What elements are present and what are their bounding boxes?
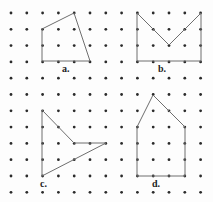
grid-dot	[10, 109, 13, 112]
grid-dot	[41, 93, 44, 96]
grid-dot	[89, 126, 92, 129]
shape-a	[42, 13, 90, 61]
grid-dot	[89, 109, 92, 112]
grid-dot	[120, 126, 123, 129]
grid-dot	[25, 158, 28, 161]
grid-dot	[199, 77, 202, 80]
grid-dot	[10, 158, 13, 161]
grid-dot	[57, 109, 60, 112]
grid-dot	[120, 12, 123, 15]
grid-dot	[25, 109, 28, 112]
grid-dot	[57, 12, 60, 15]
grid-dot	[10, 93, 13, 96]
grid-dot	[25, 126, 28, 129]
grid-dot	[199, 175, 202, 178]
grid-dot	[10, 12, 13, 15]
label-d: d.	[152, 179, 160, 189]
grid-dot	[104, 191, 107, 194]
grid-dot	[57, 44, 60, 47]
grid-dot	[152, 158, 155, 161]
grid-dot	[104, 109, 107, 112]
grid-dot	[89, 93, 92, 96]
grid-dot	[104, 44, 107, 47]
dot-grid-figure: a.b.c.d.	[0, 0, 213, 202]
grid-dot	[57, 175, 60, 178]
grid-dot	[104, 77, 107, 80]
grid-dot	[120, 109, 123, 112]
grid-dot	[199, 142, 202, 145]
grid-dot	[73, 44, 76, 47]
grid-dot	[120, 158, 123, 161]
grid-dot	[120, 61, 123, 64]
grid-dot	[183, 12, 186, 15]
grid-dot	[10, 28, 13, 31]
shape-d	[137, 95, 185, 176]
grid-dot	[168, 77, 171, 80]
grid-dot	[168, 12, 171, 15]
grid-dot	[152, 77, 155, 80]
grid-dot	[199, 158, 202, 161]
grid-dot	[73, 77, 76, 80]
grid-dot	[89, 44, 92, 47]
shape-b	[137, 13, 201, 61]
grid-dot	[89, 12, 92, 15]
grid-dot	[168, 93, 171, 96]
grid-dot	[152, 12, 155, 15]
grid-dot	[25, 191, 28, 194]
grid-dot	[25, 77, 28, 80]
grid-dot	[120, 142, 123, 145]
grid-dot	[25, 28, 28, 31]
grid-dot	[199, 93, 202, 96]
grid-dot	[57, 191, 60, 194]
grid-dot	[152, 126, 155, 129]
shape-c	[42, 110, 106, 176]
grid-dot	[199, 109, 202, 112]
grid-dot	[10, 175, 13, 178]
grid-dot	[89, 175, 92, 178]
grid-dot	[10, 126, 13, 129]
grid-dot	[10, 61, 13, 64]
grid-dot	[104, 93, 107, 96]
grid-dot	[104, 12, 107, 15]
grid-dot	[183, 109, 186, 112]
grid-dot	[10, 191, 13, 194]
grid-dot	[57, 142, 60, 145]
grid-dot	[120, 77, 123, 80]
grid-dot	[136, 191, 139, 194]
grid-dot	[25, 93, 28, 96]
grid-dot	[120, 175, 123, 178]
grid-dot	[41, 12, 44, 15]
grid-dot	[73, 28, 76, 31]
grid-dot	[120, 44, 123, 47]
grid-dot	[120, 93, 123, 96]
grid-dot	[152, 109, 155, 112]
grid-dot	[104, 158, 107, 161]
grid-dot	[89, 158, 92, 161]
grid-dot	[183, 191, 186, 194]
grid-dot	[89, 191, 92, 194]
grid-dot	[25, 44, 28, 47]
grid-dot	[25, 142, 28, 145]
grid-dot	[199, 126, 202, 129]
grid-dot	[168, 158, 171, 161]
grid-dot	[57, 28, 60, 31]
grid-dot	[10, 77, 13, 80]
grid-dot	[183, 44, 186, 47]
grid-dot	[152, 44, 155, 47]
grid-dot	[73, 191, 76, 194]
grid-dot	[168, 142, 171, 145]
grid-dot	[73, 93, 76, 96]
grid-dot	[57, 77, 60, 80]
grid-dot	[183, 77, 186, 80]
grid-dot	[199, 191, 202, 194]
grid-dot	[73, 175, 76, 178]
grid-dot	[25, 175, 28, 178]
label-a: a.	[62, 64, 70, 74]
grid-dot	[168, 28, 171, 31]
grid-dot	[104, 61, 107, 64]
grid-dot	[57, 93, 60, 96]
grid-dot	[25, 61, 28, 64]
grid-dot	[168, 191, 171, 194]
grid-dot	[104, 28, 107, 31]
grid-dot	[104, 175, 107, 178]
